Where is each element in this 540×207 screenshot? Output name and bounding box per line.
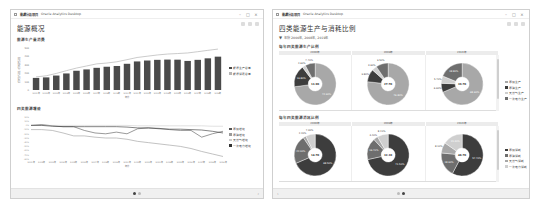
svg-text:48.7K: 48.7K: [458, 154, 467, 157]
consumption-donut-grid[interactable]: 2000年 2008年 2019年 68.50%22.00%2.20%7.30%…: [279, 122, 499, 184]
production-donut-grid[interactable]: 2000年 2008年 2019年 72.90%16.80%2.60%7.70%…: [279, 51, 499, 113]
svg-text:2001年: 2001年: [33, 91, 40, 95]
donut-chart[interactable]: 72.90%16.80%2.60%7.70%13.9K: [279, 55, 352, 110]
donut-chart[interactable]: 57.70%18.90%8.10%15.30%48.7K: [426, 126, 499, 181]
left-titlebar: 能源分析项目 Oracle Analytics Desktop – □ ×: [11, 10, 263, 19]
close-button[interactable]: ×: [252, 12, 260, 17]
close-button[interactable]: ×: [518, 12, 526, 17]
svg-text:2010年: 2010年: [123, 160, 130, 164]
svg-text:15.30%: 15.30%: [450, 140, 460, 143]
svg-text:2001年: 2001年: [27, 160, 34, 164]
app-icon: [276, 13, 279, 16]
svg-text:-20%: -20%: [24, 133, 29, 136]
svg-text:20%: 20%: [25, 116, 30, 119]
svg-text:16.70%: 16.70%: [370, 149, 380, 152]
svg-text:2013年: 2013年: [154, 91, 161, 95]
svg-text:7.70%: 7.70%: [305, 59, 313, 62]
canvas-toolbar: [507, 22, 525, 26]
donut-chart[interactable]: 71.50%16.70%3.40%8.40%32.1K: [352, 126, 425, 181]
app-icon: [14, 13, 17, 16]
bar: [184, 61, 190, 90]
chart2-title: 四类能源增速: [11, 104, 263, 113]
page-dot-1[interactable]: [397, 192, 400, 195]
svg-text:2004年: 2004年: [59, 160, 66, 164]
svg-text:57.70%: 57.70%: [472, 157, 482, 160]
svg-text:2012年: 2012年: [144, 91, 151, 95]
bar: [154, 60, 160, 90]
svg-text:68.60%: 68.60%: [470, 91, 480, 94]
legend-label: 原煤消耗: [509, 148, 521, 152]
svg-text:2008年: 2008年: [102, 160, 109, 164]
bar: [144, 61, 150, 90]
donut-chart[interactable]: 68.60%6.90%5.70%18.80%39.7K: [426, 55, 499, 110]
svg-text:2011年: 2011年: [134, 160, 141, 164]
bar-line-chart[interactable]: 010K20K30K40K50K能源生产总量 / 能源消费总量2001年2002…: [17, 44, 257, 102]
undo-icon[interactable]: [507, 22, 511, 26]
svg-text:2.60%: 2.60%: [298, 62, 306, 65]
legend-label: 原油增速: [233, 133, 245, 137]
svg-text:2016年: 2016年: [184, 91, 191, 95]
filter-bar[interactable]: ▼ 年份 2000年, 2008年, 2019年: [273, 35, 529, 42]
svg-text:-70%: -70%: [24, 154, 29, 157]
svg-text:22.00%: 22.00%: [296, 150, 306, 153]
desktop: 能源分析项目 Oracle Analytics Desktop – □ × 能源…: [0, 0, 540, 207]
svg-text:2019年: 2019年: [219, 160, 226, 164]
svg-text:2013年: 2013年: [155, 160, 162, 164]
minimize-button[interactable]: –: [502, 12, 510, 17]
donut-cells: 68.50%22.00%2.20%7.30%14.7K71.50%16.70%3…: [279, 126, 499, 182]
page-dot-2[interactable]: [402, 192, 405, 195]
page-navigator: ‹: [273, 188, 529, 198]
maximize-button[interactable]: □: [244, 12, 252, 17]
legend-swatch: [505, 86, 508, 89]
page-dot-1[interactable]: [133, 192, 136, 195]
row1-legend: 原煤生产 原油生产 天然气生产 一次电力生产: [505, 80, 527, 102]
svg-text:6.90%: 6.90%: [433, 87, 441, 90]
legend-label: 原煤生产: [509, 80, 521, 84]
vertical-scrollbar[interactable]: [496, 126, 499, 182]
next-page-icon[interactable]: ›: [257, 191, 259, 196]
prev-page-icon[interactable]: ‹: [277, 191, 279, 196]
app-name: Oracle Analytics Desktop: [303, 12, 343, 16]
svg-text:-60%: -60%: [24, 149, 29, 152]
canvas-toolbar: [241, 22, 259, 26]
svg-text:76.80%: 76.80%: [394, 94, 404, 97]
svg-text:2014年: 2014年: [164, 91, 171, 95]
svg-text:能源生产总量 / 能源消费总量: 能源生产总量 / 能源消费总量: [17, 56, 21, 83]
scroll-thumb[interactable]: [497, 59, 499, 99]
page-dot-2[interactable]: [138, 192, 141, 195]
more-icon[interactable]: [521, 22, 525, 26]
bar: [215, 57, 221, 90]
legend-swatch: [505, 97, 508, 100]
bar: [174, 60, 180, 90]
redo-icon[interactable]: [514, 22, 518, 26]
undo-icon[interactable]: [241, 22, 245, 26]
svg-text:2002年: 2002年: [43, 91, 50, 95]
svg-text:16.80%: 16.80%: [297, 77, 307, 80]
svg-text:71.50%: 71.50%: [396, 163, 406, 166]
svg-text:-40%: -40%: [24, 141, 29, 144]
svg-text:-10%: -10%: [24, 128, 29, 131]
svg-text:40K: 40K: [24, 55, 29, 58]
donut-chart[interactable]: 68.50%22.00%2.20%7.30%14.7K: [279, 126, 352, 181]
svg-text:9.50%: 9.50%: [377, 59, 385, 62]
more-icon[interactable]: [255, 22, 259, 26]
svg-text:50K: 50K: [24, 47, 29, 50]
svg-text:2009年: 2009年: [113, 91, 120, 95]
vertical-scrollbar[interactable]: [496, 55, 499, 111]
legend-swatch: [229, 144, 232, 147]
donut-cells: 72.90%16.80%2.60%7.70%13.9K76.80%9.80%3.…: [279, 55, 499, 111]
legend-swatch: [505, 149, 508, 152]
svg-text:8.10%: 8.10%: [435, 145, 443, 148]
minimize-button[interactable]: –: [236, 12, 244, 17]
svg-text:2002年: 2002年: [38, 160, 45, 164]
redo-icon[interactable]: [248, 22, 252, 26]
svg-text:2010年: 2010年: [123, 91, 130, 95]
donut-chart[interactable]: 76.80%9.80%3.90%9.50%27.7K: [352, 55, 425, 110]
scroll-thumb[interactable]: [497, 130, 499, 170]
svg-text:2015年: 2015年: [177, 160, 184, 164]
line-chart[interactable]: -80%-70%-60%-50%-40%-30%-20%-10%0%10%20%…: [17, 113, 257, 169]
svg-text:7.30%: 7.30%: [306, 129, 314, 132]
svg-text:20K: 20K: [24, 72, 29, 75]
row2-title: 每年四类能源消耗比例: [273, 113, 529, 122]
maximize-button[interactable]: □: [510, 12, 518, 17]
